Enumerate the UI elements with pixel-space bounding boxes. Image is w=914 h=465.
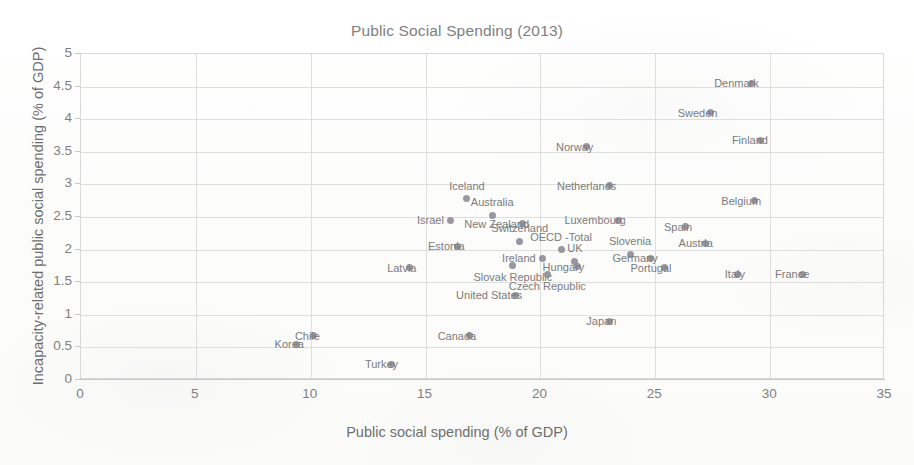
data-point[interactable]: [544, 271, 551, 278]
data-point[interactable]: [447, 217, 454, 224]
data-point-label: Belgium: [721, 195, 761, 206]
data-point-label: Norway: [556, 141, 593, 152]
x-tick-label: 30: [749, 386, 789, 401]
y-tick-mark: [75, 118, 80, 119]
data-point-label: Denmark: [714, 78, 759, 89]
data-point-label: France: [775, 269, 809, 280]
y-tick-mark: [75, 53, 80, 54]
x-tick-label: 20: [519, 386, 559, 401]
data-point-label: Australia: [471, 197, 514, 208]
data-point-label: Israel: [417, 215, 444, 226]
gridline-horizontal: [81, 119, 883, 120]
y-tick-mark: [75, 151, 80, 152]
data-point-label: Spain: [664, 221, 692, 232]
chart-page: Public Social Spending (2013) DenmarkSwe…: [0, 0, 914, 465]
y-tick-mark: [75, 86, 80, 87]
y-tick-mark: [75, 183, 80, 184]
gridline-horizontal: [81, 87, 883, 88]
data-point-label: Iceland: [449, 181, 484, 192]
y-tick-mark: [75, 281, 80, 282]
x-axis-title: Public social spending (% of GDP): [0, 424, 914, 440]
data-point-label: Sweden: [678, 107, 718, 118]
gridline-vertical: [196, 54, 197, 378]
data-point-label: Canada: [438, 330, 477, 341]
gridline-vertical: [540, 54, 541, 378]
data-point-label: OECD -Total: [530, 232, 592, 243]
data-point-label: Luxembourg: [564, 215, 625, 226]
x-tick-label: 35: [864, 386, 904, 401]
data-point-label: UK: [567, 243, 582, 254]
y-tick-mark: [75, 314, 80, 315]
y-tick-mark: [75, 379, 80, 380]
data-point-label: Netherlands: [557, 180, 616, 191]
data-point-label: Portugal: [630, 262, 671, 273]
data-point-label: Ireland: [502, 253, 536, 264]
y-tick-mark: [75, 249, 80, 250]
data-point[interactable]: [558, 246, 565, 253]
data-point-label: Finland: [732, 135, 768, 146]
data-point-label: Japan: [586, 316, 616, 327]
gridline-vertical: [655, 54, 656, 378]
y-tick-mark: [75, 346, 80, 347]
data-point-label: Korea: [275, 339, 304, 350]
data-point-label: United States: [456, 290, 522, 301]
x-tick-label: 15: [405, 386, 445, 401]
data-point-label: Slovenia: [609, 236, 651, 247]
scatter-chart: Public Social Spending (2013) DenmarkSwe…: [0, 0, 914, 465]
x-tick-label: 5: [175, 386, 215, 401]
plot-area: DenmarkSwedenFinlandNorwayNetherlandsIce…: [80, 53, 884, 379]
gridline-vertical: [770, 54, 771, 378]
data-point[interactable]: [509, 262, 516, 269]
x-tick-label: 10: [290, 386, 330, 401]
data-point[interactable]: [463, 195, 470, 202]
chart-title: Public Social Spending (2013): [0, 22, 914, 40]
data-point-label: Turkey: [365, 359, 398, 370]
data-point[interactable]: [516, 238, 523, 245]
y-tick-mark: [75, 216, 80, 217]
gridline-horizontal: [81, 152, 883, 153]
y-axis-title: Incapacity-related public social spendin…: [30, 26, 46, 406]
data-point-label: Latvia: [387, 262, 416, 273]
data-point-label: Austria: [679, 238, 713, 249]
x-axis-line: [80, 379, 885, 380]
gridline-horizontal: [81, 347, 883, 348]
gridline-horizontal: [81, 315, 883, 316]
gridline-horizontal: [81, 250, 883, 251]
x-tick-label: 25: [634, 386, 674, 401]
x-tick-label: 0: [60, 386, 100, 401]
data-point-label: Italy: [725, 269, 745, 280]
data-point-label: Estonia: [428, 241, 465, 252]
